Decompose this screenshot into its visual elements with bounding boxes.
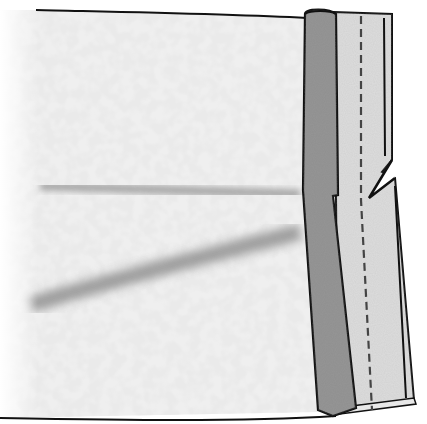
sewing-diagram [0, 0, 427, 424]
illustration-canvas [0, 0, 427, 424]
fabric-body [0, 10, 320, 420]
